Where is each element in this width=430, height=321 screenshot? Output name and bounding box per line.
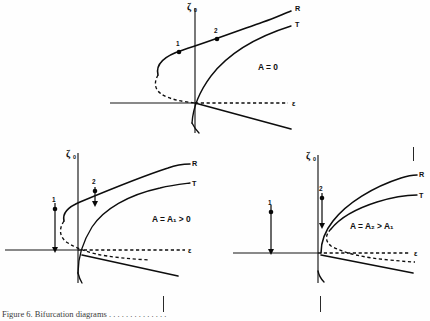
parameter-annotation: A = A₁ > 0: [152, 214, 191, 224]
panel-b-A1: 1 2 R T ε ζ 0 A = A₁ > 0: [0, 145, 220, 285]
page-edge-mark: [413, 147, 414, 161]
point-label-1: 1: [268, 199, 272, 206]
axis-label-zeta-subscript: 0: [73, 154, 76, 160]
branch-label-R: R: [192, 159, 198, 168]
axis-label-zeta: ζ: [187, 1, 192, 13]
point-label-2: 2: [92, 178, 96, 185]
axis-label-epsilon: ε: [292, 99, 296, 108]
figure-root: 1 2 R T ε ζ 0 A = 0: [0, 0, 430, 321]
branch-tail-below-origin: [78, 273, 82, 283]
point-marker-1: [269, 210, 274, 215]
point-label-2: 2: [319, 185, 323, 192]
arrow-head-2: [92, 201, 98, 207]
point-label-2: 2: [214, 27, 218, 34]
point-marker-2: [215, 37, 220, 42]
panel-c-A2: 1 2 R T ε ζ 0 A = A₂ > A₁: [205, 145, 430, 285]
arrow-head-1: [268, 249, 274, 255]
figure-caption: Figure 6. Bifurcation diagrams . . . . .…: [0, 309, 430, 321]
branch-R-upper-stable: [64, 164, 190, 221]
lower-straight-branch: [321, 255, 413, 273]
lower-straight-branch: [195, 103, 291, 129]
point-label-1: 1: [52, 196, 56, 203]
point-marker-2: [93, 189, 98, 194]
point-label-1: 1: [176, 40, 180, 47]
axis-label-epsilon: ε: [188, 246, 192, 255]
branch-label-T: T: [192, 179, 197, 188]
panel-c-plot: 1 2 R T ε ζ 0 A = A₂ > A₁: [205, 145, 430, 285]
figure-caption-text: Figure 6. Bifurcation diagrams . . . . .…: [2, 309, 430, 320]
branch-unstable-dashed: [155, 75, 195, 103]
branch-R-upper-stable: [321, 175, 417, 253]
panel-a-zero-detuning: 1 2 R T ε ζ 0 A = 0: [95, 0, 355, 140]
branch-tail-below-origin: [318, 271, 324, 282]
branch-label-R: R: [295, 4, 301, 13]
arrow-head-2: [319, 223, 325, 229]
branch-label-T: T: [419, 191, 424, 200]
point-marker-2: [320, 196, 325, 201]
axis-label-zeta-subscript: 0: [313, 156, 316, 162]
parameter-annotation: A = 0: [258, 62, 278, 72]
branch-T-stable: [192, 26, 291, 123]
point-marker-1: [177, 50, 182, 55]
branch-unstable-dashed: [61, 221, 150, 260]
axis-label-zeta: ζ: [66, 148, 71, 160]
axis-label-epsilon: ε: [414, 249, 418, 258]
parameter-annotation: A = A₂ > A₁: [350, 221, 394, 231]
axis-label-zeta: ζ: [306, 150, 311, 162]
branch-unstable-dashed: [327, 229, 416, 262]
branch-label-T: T: [295, 20, 300, 29]
panel-a-plot: 1 2 R T ε ζ 0 A = 0: [95, 0, 355, 140]
branch-label-R: R: [419, 170, 425, 179]
axis-label-zeta-subscript: 0: [194, 7, 197, 13]
panel-b-plot: 1 2 R T ε ζ 0 A = A₁ > 0: [0, 145, 220, 285]
point-marker-1: [53, 207, 58, 212]
